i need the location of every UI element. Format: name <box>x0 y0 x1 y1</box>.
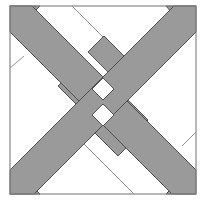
quilt-block-diagram <box>0 0 204 206</box>
